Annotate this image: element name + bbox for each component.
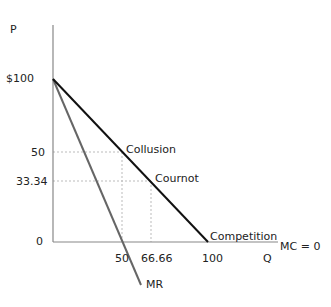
chart: P $100 50 33.34 0 50 66.66 100 Q Collusi… xyxy=(0,0,331,307)
mr-label: MR xyxy=(146,278,163,291)
q-axis-label: Q xyxy=(263,252,272,265)
x-tick-100: 100 xyxy=(202,252,223,265)
competition-label: Competition xyxy=(210,230,277,243)
cournot-label: Cournot xyxy=(155,172,199,185)
x-tick-50: 50 xyxy=(115,252,129,265)
x-tick-66: 66.66 xyxy=(141,252,173,265)
y-tick-33: 33.34 xyxy=(16,175,48,188)
collusion-label: Collusion xyxy=(126,143,176,156)
p-axis-label: P xyxy=(10,23,17,36)
y-tick-0: 0 xyxy=(36,235,43,248)
y-tick-100: $100 xyxy=(6,72,34,85)
y-tick-50: 50 xyxy=(31,146,45,159)
mc-label: MC = 0 xyxy=(280,240,320,253)
demand-curve xyxy=(53,79,208,242)
